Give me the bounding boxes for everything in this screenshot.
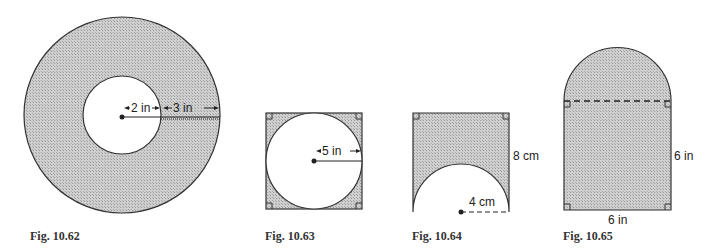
radius-label: 4 cm [469,195,495,209]
ring-width-label: 3 in [173,101,192,115]
center-dot [459,210,464,215]
figures-canvas: 2 in 3 in Fig. 10.62 5 in Fig. 10.63 4 c… [0,0,719,250]
caption-fig-10-64: Fig. 10.64 [412,229,462,243]
height-label: 6 in [674,149,693,163]
center-dot [312,159,317,164]
figure-square-minus-semicircle: 4 cm 8 cm Fig. 10.64 [412,113,539,243]
caption-fig-10-63: Fig. 10.63 [265,229,315,243]
center-dot [120,115,125,120]
side-label: 8 cm [513,149,539,163]
figure-circle-in-square: 5 in Fig. 10.63 [265,113,362,243]
radius-label: 5 in [322,144,341,158]
shaded-region [564,47,671,210]
caption-fig-10-65: Fig. 10.65 [563,229,613,243]
figure-square-plus-semicircle: 6 in 6 in Fig. 10.65 [563,47,693,243]
figure-annulus: 2 in 3 in Fig. 10.62 [24,17,220,243]
caption-fig-10-62: Fig. 10.62 [30,229,80,243]
inner-radius-label: 2 in [131,101,150,115]
width-label: 6 in [608,213,627,227]
